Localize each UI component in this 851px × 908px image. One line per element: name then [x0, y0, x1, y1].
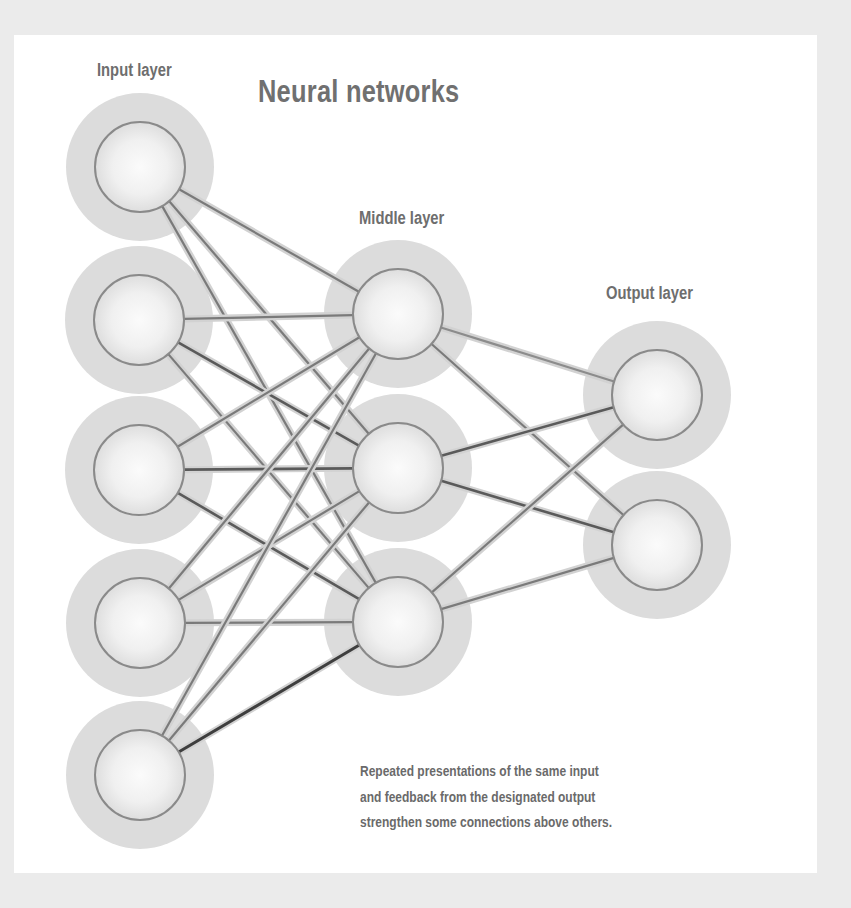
input-node-3: [94, 425, 184, 515]
caption: Repeated presentations of the same input…: [360, 758, 612, 835]
middle-node-3: [353, 577, 443, 667]
output-layer-label: Output layer: [606, 283, 693, 304]
input-node-4: [95, 578, 185, 668]
output-node-2: [612, 500, 702, 590]
input-layer-label: Input layer: [97, 60, 172, 81]
middle-layer-label: Middle layer: [359, 208, 444, 229]
input-node-5: [95, 730, 185, 820]
middle-node-1: [353, 269, 443, 359]
connection-line: [162, 353, 376, 735]
diagram-title: Neural networks: [258, 74, 459, 110]
input-node-2: [94, 275, 184, 365]
caption-line: and feedback from the designated output: [360, 784, 612, 810]
connection-line: [184, 315, 353, 319]
connection-line: [441, 407, 613, 456]
input-node-1: [95, 122, 185, 212]
caption-line: Repeated presentations of the same input: [360, 758, 612, 784]
output-node-1: [612, 350, 702, 440]
middle-node-2: [353, 423, 443, 513]
caption-line: strengthen some connections above others…: [360, 809, 612, 835]
